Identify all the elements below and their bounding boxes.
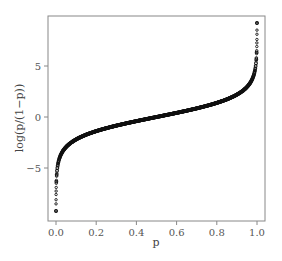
x-tick-label: 0.6 [169, 227, 185, 238]
x-tick-label: 0.4 [128, 227, 144, 238]
x-tick-label: 1.0 [249, 227, 265, 238]
x-tick-label: 0.0 [48, 227, 64, 238]
y-axis: −505 [26, 61, 48, 174]
logit-chart: 0.00.20.40.60.81.0 −505 p log(p/(1−p)) [0, 0, 282, 261]
y-tick-label: −5 [26, 163, 41, 174]
x-axis-label: p [152, 236, 159, 249]
x-tick-label: 0.2 [88, 227, 104, 238]
y-tick-label: 0 [35, 112, 41, 123]
y-axis-label: log(p/(1−p)) [13, 84, 26, 152]
x-tick-label: 0.8 [209, 227, 225, 238]
y-tick-label: 5 [35, 61, 41, 72]
